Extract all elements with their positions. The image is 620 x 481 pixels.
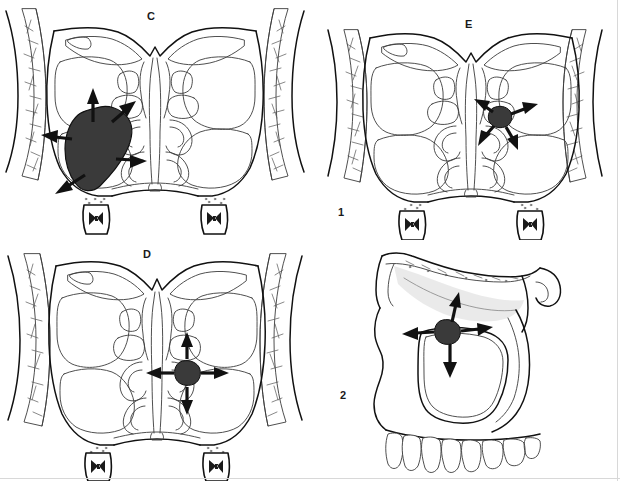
nasal-septum (465, 64, 478, 197)
panel-c: C (0, 0, 310, 240)
right-lateral-bone (563, 30, 602, 182)
row-label-1: 1 (338, 206, 344, 218)
nasal-septum (149, 58, 162, 191)
right-maxillary-sinus (183, 57, 255, 130)
left-inferior-sinus (374, 135, 448, 194)
left-maxillary-sinus (57, 293, 129, 368)
panel-label-c: C (147, 10, 155, 22)
right-inferior-sinus (178, 129, 252, 188)
figure-root: C (0, 0, 620, 481)
panel-d: D (0, 240, 310, 481)
panel-label-e: E (465, 18, 473, 30)
right-lateral-bone (264, 9, 304, 180)
skull-outline (49, 262, 265, 445)
left-ethmoid-turbinates (114, 298, 148, 434)
panel-c-drawing (0, 0, 310, 240)
maxillary-sinus-cavity (418, 328, 508, 424)
anterior-maxilla (374, 308, 386, 430)
right-lateral-bone (260, 254, 302, 426)
row-label-2: 2 (340, 389, 346, 401)
left-maxillary-sinus (371, 63, 443, 136)
left-lateral-bone (8, 254, 50, 426)
arrow-superolateral (511, 102, 538, 114)
right-trabecular-texture (269, 20, 286, 171)
left-molar-tooth (83, 205, 109, 234)
left-trabecular-texture (346, 38, 363, 172)
frame-line-right (617, 0, 618, 481)
panel-lateral (310, 240, 620, 481)
right-ethmoid-turbinates (164, 62, 198, 186)
frontal-sinus-cells (382, 43, 560, 70)
right-molar-tooth (203, 453, 229, 481)
arrow-inferomedial (478, 126, 494, 146)
upper-teeth-row (386, 433, 541, 473)
left-trabecular-texture (24, 20, 41, 171)
panel-e: E (310, 0, 620, 240)
right-maxillary-sinus (185, 293, 257, 368)
panel-lateral-drawing (310, 240, 620, 481)
frontal-sinus-cells (66, 36, 244, 64)
arrow-anterior (402, 327, 434, 340)
tumor-mass-panel-lateral (435, 320, 461, 345)
left-molar-tooth (85, 453, 111, 481)
tumor-mass-panel-d (175, 361, 201, 386)
skull-outline (363, 34, 579, 202)
posterior-maxilla (492, 310, 530, 432)
right-maxillary-sinus (499, 63, 571, 136)
arrow-medial (146, 367, 174, 379)
frame-line-bottom (0, 478, 620, 479)
panel-e-drawing (310, 0, 620, 240)
right-molar-tooth (201, 205, 227, 234)
left-ethmoid-turbinates (428, 68, 462, 192)
right-inferior-sinus (494, 135, 568, 194)
panel-label-d: D (143, 248, 151, 260)
left-lateral-bone (328, 30, 367, 182)
right-molar-tooth (517, 211, 543, 240)
frontal-sinus-cells (68, 271, 246, 299)
left-lateral-bone (6, 9, 46, 180)
left-trabecular-texture (26, 264, 43, 416)
arrow-inferior (443, 344, 457, 378)
left-molar-tooth (399, 211, 425, 240)
panel-d-drawing (0, 240, 310, 481)
right-trabecular-texture (267, 264, 284, 416)
nasal-septum (151, 292, 164, 440)
